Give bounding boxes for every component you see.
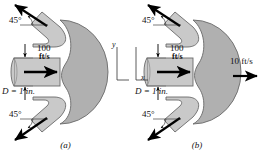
panel-a-caption: (a)	[0, 140, 131, 150]
coordinate-axes	[117, 47, 129, 80]
panel-b: 45° 45° 100 ft/s D = 1 in. 10 ft/s x (b)	[131, 0, 263, 151]
diameter-label: D = 1 in.	[135, 87, 168, 96]
vane-channel-upper	[31, 12, 66, 47]
panel-b-caption: (b)	[131, 140, 263, 150]
diameter-label: D = 1 in.	[2, 87, 35, 96]
jet-speed-unit: ft/s	[172, 53, 183, 61]
angle-label-bottom: 45°	[142, 110, 155, 119]
angle-label-bottom: 45°	[9, 110, 22, 119]
vane-body	[60, 20, 108, 124]
angle-label-top: 45°	[142, 16, 155, 25]
panel-a: 45° 45° 100 ft/s D = 1 in. y (a)	[0, 0, 131, 151]
jet-speed-unit: ft/s	[39, 53, 50, 61]
vane-channel-upper	[164, 12, 199, 47]
axis-label-y: y	[112, 40, 116, 49]
vane-speed-label: 10 ft/s	[230, 57, 253, 66]
vane-body	[193, 20, 241, 124]
figure-jet-on-split-vane: 45° 45° 100 ft/s D = 1 in. y (a)	[0, 0, 263, 151]
axis-label-x: x	[141, 73, 145, 82]
angle-label-top: 45°	[9, 16, 22, 25]
